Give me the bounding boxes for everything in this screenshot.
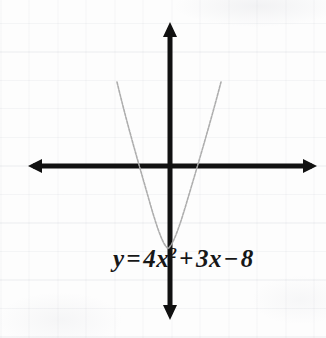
equation-label: y=4x2+3x−8	[113, 246, 254, 271]
equation-operator-minus: −	[222, 245, 241, 272]
x-axis-right-arrow-icon	[303, 159, 317, 173]
equation-equals-sign: =	[125, 245, 144, 272]
equation-term1-variable: x	[156, 245, 169, 272]
graph-figure: y=4x2+3x−8	[0, 0, 326, 338]
coordinate-plane	[0, 0, 326, 338]
y-axis-top-arrow-icon	[163, 22, 177, 37]
equation-term1-coefficient: 4	[143, 245, 156, 272]
equation-operator-plus: +	[177, 245, 196, 272]
equation-lhs: y	[113, 245, 125, 272]
x-axis-left-arrow-icon	[28, 159, 42, 173]
equation-term2: 3x	[196, 245, 222, 272]
y-axis-bottom-arrow-icon	[163, 305, 177, 320]
equation-constant: 8	[241, 245, 254, 272]
